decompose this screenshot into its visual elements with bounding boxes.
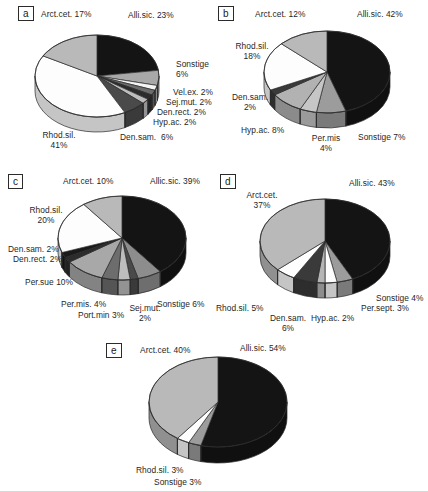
label-c-portmin: Port.min 3% [78, 311, 124, 321]
label-c-alli: Allic.sic. 39% [150, 177, 200, 187]
panel-e: e Arct.cet. 40% Alli.sic. 54% Rhod.sil. … [80, 338, 350, 492]
label-c-rhod-value: 20% [20, 216, 72, 226]
label-d-rhod: Rhod.sil. 5% [216, 304, 264, 314]
label-b-rhod-value: 18% [224, 52, 280, 62]
pie-chart-e [80, 338, 350, 492]
label-c-permis: Per.mis. 4% [61, 300, 106, 310]
label-c-persue: Per.sue 10% [25, 278, 73, 288]
label-a-rhod-value: 41% [29, 141, 89, 151]
figure-canvas: a Arct.cet. 17% Alli.sic. 23% Sonstige 6… [0, 0, 428, 492]
label-e-arct: Arct.cet. 40% [140, 346, 190, 356]
label-a-alli: Alli.sic. 23% [128, 11, 174, 21]
label-c-arct: Arct.cet. 10% [63, 177, 113, 187]
label-e-alli: Alli.sic. 54% [240, 344, 286, 354]
label-e-sonstige: Sonstige 3% [154, 478, 202, 488]
label-a-hypac: Hyp.ac. 2% [153, 118, 196, 128]
label-b-alli: Alli.sic. 42% [357, 10, 403, 20]
label-d-persept: Per.sept. 3% [361, 304, 409, 314]
label-d-densam-value: 6% [264, 324, 312, 334]
label-a-densam: Den.sam. 6% [120, 133, 173, 143]
label-b-hypac: Hyp.ac. 8% [241, 126, 284, 136]
label-c-denrect: Den.rect. 2% [13, 255, 62, 265]
panel-b: b Arct.cet. 12% Alli.sic. 42% Rhod.sil. … [214, 0, 428, 166]
label-d-arct-value: 37% [238, 201, 286, 211]
label-c-sonstige: Sonstige 6% [157, 300, 205, 310]
label-d-alli: Alli.sic. 43% [349, 179, 395, 189]
label-a-sonstige-value: 6% [176, 70, 188, 80]
label-b-arct: Arct.cet. 12% [255, 10, 305, 20]
label-b-permis-value: 4% [302, 144, 350, 154]
label-d-hypac: Hyp.ac. 2% [311, 314, 354, 324]
panel-d: d Arct.cet. 37% Alli.sic. 43% Sonstige 4… [214, 166, 428, 338]
label-c-sejmut-value: 2% [125, 314, 165, 324]
panel-a: a Arct.cet. 17% Alli.sic. 23% Sonstige 6… [0, 0, 214, 166]
label-b-sonstige: Sonstige 7% [358, 133, 406, 143]
label-a-arct: Arct.cet. 17% [41, 10, 91, 20]
label-e-rhod: Rhod.sil. 3% [136, 466, 184, 476]
panel-c: c Arct.cet. 10% Allic.sic. 39% Rhod.sil.… [0, 166, 214, 338]
label-b-densam-value: 2% [222, 103, 278, 113]
